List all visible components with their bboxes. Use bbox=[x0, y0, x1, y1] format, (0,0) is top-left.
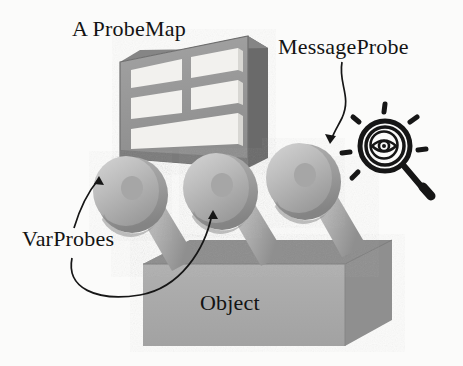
shine-ray-5 bbox=[418, 149, 426, 150]
label-object: Object bbox=[200, 292, 260, 314]
messageprobe-arrow-head bbox=[325, 134, 336, 144]
probe-disc-1-hole bbox=[121, 176, 143, 200]
probemap-pane-depth-r3 bbox=[238, 113, 243, 146]
magnifier-handle-tip bbox=[423, 187, 431, 196]
probe-disc-2-hole bbox=[211, 173, 233, 197]
shine-ray-3 bbox=[410, 117, 417, 122]
probemap-figure: A ProbeMap MessageProbe VarProbes Object bbox=[0, 0, 463, 366]
probe-disc-3-hole bbox=[294, 163, 316, 187]
label-message-probe: MessageProbe bbox=[278, 36, 409, 58]
probemap-side-face bbox=[248, 36, 268, 168]
shine-ray-2 bbox=[353, 117, 359, 122]
label-probemap: A ProbeMap bbox=[72, 18, 186, 40]
magnifying-glass-eye-icon bbox=[342, 104, 431, 196]
label-var-probes: VarProbes bbox=[22, 228, 114, 250]
eye-pupil bbox=[382, 144, 386, 148]
messageprobe-arrow bbox=[332, 62, 346, 138]
probemap-pane-depth-r2c2 bbox=[238, 80, 243, 105]
probemap-block bbox=[120, 36, 268, 168]
shine-ray-6 bbox=[352, 172, 358, 178]
shine-ray-1 bbox=[384, 104, 385, 112]
shine-ray-4 bbox=[342, 152, 350, 153]
probemap-pane-depth-r1c2 bbox=[238, 48, 243, 72]
